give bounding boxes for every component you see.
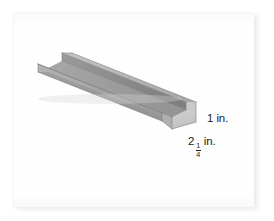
dimension-height-text: 1 in. xyxy=(207,112,228,124)
dimension-label-height: 1 in. xyxy=(207,113,228,125)
channel-floor-face xyxy=(48,61,186,117)
contact-shadow xyxy=(38,94,182,104)
u-channel-illustration xyxy=(0,0,274,221)
dimension-label-width: 214in. xyxy=(188,136,216,158)
dimension-width-fraction: 14 xyxy=(196,142,201,158)
dimension-width-whole: 2 xyxy=(188,135,194,147)
fraction-denominator: 4 xyxy=(196,151,200,159)
figure-stage: 1 in. 214in. xyxy=(0,0,274,221)
end-cap-far-wall xyxy=(186,102,196,110)
fraction-numerator: 1 xyxy=(196,142,200,150)
dimension-width-unit: in. xyxy=(204,135,216,147)
